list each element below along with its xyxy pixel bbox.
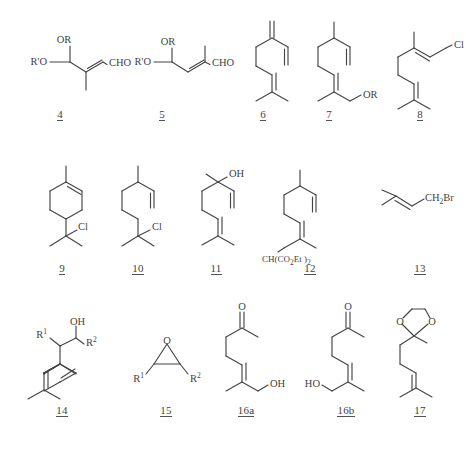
atom-label-epoxide-o: O bbox=[163, 335, 171, 346]
atom-label-cl: Cl bbox=[454, 39, 464, 50]
compound-label-11: 11 bbox=[196, 262, 236, 275]
compound-label-6: 6 bbox=[243, 108, 283, 121]
atom-label-ketone-o: O bbox=[344, 301, 352, 312]
structure-6 bbox=[238, 16, 308, 108]
compound-label-7: 7 bbox=[309, 108, 349, 121]
atom-label-r2: R2 bbox=[190, 371, 201, 385]
structure-8: Cl bbox=[384, 16, 466, 108]
compound-label-16b: 16b bbox=[322, 404, 370, 417]
atom-label-oh: OH bbox=[229, 168, 245, 179]
atom-label-cho: CHO bbox=[212, 57, 235, 68]
atom-label-r1: R1 bbox=[133, 371, 144, 385]
compound-label-8: 8 bbox=[400, 108, 440, 121]
structure-12: CH(CO2Et )2 bbox=[258, 156, 366, 256]
structure-13: CH2Br bbox=[378, 178, 466, 228]
structure-15: O R1 R2 bbox=[128, 330, 208, 396]
compound-label-5: 5 bbox=[142, 108, 182, 121]
atom-label-ch2br: CH2Br bbox=[425, 192, 454, 205]
structure-10: Cl bbox=[110, 158, 192, 254]
compound-label-17: 17 bbox=[400, 404, 440, 417]
structure-16b: O HO bbox=[296, 300, 388, 396]
atom-label-dioxolane-o1: O bbox=[396, 316, 404, 327]
atom-label-or: OR bbox=[161, 36, 176, 47]
atom-label-cl: Cl bbox=[152, 221, 162, 232]
structure-7: OR bbox=[304, 16, 394, 108]
compound-label-12: 12 bbox=[290, 262, 330, 275]
atom-label-or: OR bbox=[57, 34, 72, 45]
atom-label-cl: Cl bbox=[78, 221, 88, 232]
atom-label-dioxolane-o2: O bbox=[428, 316, 436, 327]
compound-label-16a: 16a bbox=[222, 404, 270, 417]
structure-17: O O bbox=[380, 296, 466, 400]
atom-label-ho: HO bbox=[305, 378, 321, 389]
structure-16a: O OH bbox=[208, 300, 300, 396]
compound-label-15: 15 bbox=[146, 404, 186, 417]
compound-label-10: 10 bbox=[118, 262, 158, 275]
atom-label-ketone-o: O bbox=[238, 301, 246, 312]
structure-4: OR R'O CHO bbox=[14, 28, 132, 100]
structure-14-lower bbox=[20, 300, 120, 404]
compound-label-14: 14 bbox=[42, 404, 82, 417]
atom-label-oh: OH bbox=[270, 378, 286, 389]
atom-label-or: OR bbox=[363, 89, 378, 100]
atom-label-rprime-o: R'O bbox=[135, 56, 152, 67]
compound-label-9: 9 bbox=[42, 262, 82, 275]
structure-9: Cl bbox=[32, 158, 112, 254]
compound-label-13: 13 bbox=[400, 262, 440, 275]
atom-label-rprime-o: R'O bbox=[31, 56, 48, 67]
compound-label-4: 4 bbox=[40, 108, 80, 121]
structure-5: OR R'O CHO bbox=[118, 28, 236, 100]
